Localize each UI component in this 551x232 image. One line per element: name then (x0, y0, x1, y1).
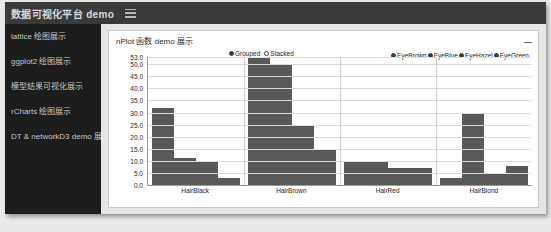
x-axis-tick: HairBlond (436, 187, 532, 194)
radio-stacked-label: Stacked (270, 50, 294, 57)
radio-stacked[interactable]: Stacked (264, 50, 294, 57)
bar[interactable] (314, 149, 336, 185)
bar[interactable] (484, 173, 506, 185)
y-axis-tick: 15.0 (130, 145, 143, 152)
grouping-radio-group: Grouped Stacked (229, 50, 294, 57)
radio-grouped-label: Grouped (235, 50, 260, 57)
y-axis-tick: 30.0 (130, 109, 143, 116)
y-axis-tick: 0.0 (134, 182, 143, 189)
sidebar-item-model-results[interactable]: 模型结果可视化展示 (5, 74, 101, 99)
bar[interactable] (410, 168, 432, 185)
plot-grid (147, 57, 532, 186)
x-axis-tick: HairBrown (243, 187, 339, 194)
y-axis-tick: 40.0 (130, 85, 143, 92)
y-axis-labels: 0.05.010.015.020.025.030.035.040.045.050… (109, 57, 145, 185)
bar[interactable] (388, 168, 410, 185)
bar[interactable] (506, 166, 528, 185)
minimize-icon[interactable] (524, 36, 532, 43)
y-axis-tick: 35.0 (130, 97, 143, 104)
x-axis-tick: HairRed (340, 187, 436, 194)
bar-chart: 0.05.010.015.020.025.030.035.040.045.050… (109, 57, 540, 207)
y-axis-tick: 53.0 (130, 54, 143, 61)
radio-hollow-icon (264, 51, 269, 56)
x-axis-tick: HairBlack (147, 187, 243, 194)
top-navbar: 数据可视化平台 demo (5, 2, 546, 24)
y-axis-tick: 5.0 (134, 169, 143, 176)
sidebar: lattice 绘图展示 ggplot2 绘图展示 模型结果可视化展示 rCha… (5, 24, 101, 214)
y-axis-tick: 10.0 (130, 157, 143, 164)
y-axis-tick: 20.0 (130, 133, 143, 140)
bar[interactable] (292, 125, 314, 185)
hamburger-bar (125, 16, 136, 18)
sidebar-item-dt-networkd3[interactable]: DT & networkD3 demo 展示 (5, 124, 101, 149)
content-area: nPlot 函数 demo 展示 Grouped Stacked (101, 24, 546, 214)
bar[interactable] (218, 178, 240, 185)
app-window: 数据可视化平台 demo lattice 绘图展示 ggplot2 绘图展示 模… (5, 2, 546, 214)
group-divider (436, 57, 437, 185)
hamburger-bar (125, 9, 136, 11)
minimize-bar (524, 42, 532, 44)
app-brand-title: 数据可视化平台 demo (5, 6, 114, 21)
sidebar-item-lattice[interactable]: lattice 绘图展示 (5, 24, 101, 49)
group-divider (244, 57, 245, 185)
sidebar-item-ggplot2[interactable]: ggplot2 绘图展示 (5, 49, 101, 74)
panel-header: nPlot 函数 demo 展示 (109, 31, 538, 49)
bar[interactable] (440, 178, 462, 185)
group-divider (340, 57, 341, 185)
y-axis-tick: 45.0 (130, 73, 143, 80)
bar[interactable] (174, 158, 196, 185)
hamburger-icon[interactable] (125, 9, 136, 18)
sidebar-item-rcharts[interactable]: rCharts 绘图展示 (5, 99, 101, 124)
y-axis-tick: 50.0 (130, 61, 143, 68)
panel-title: nPlot 函数 demo 展示 (116, 35, 538, 46)
chart-panel: nPlot 函数 demo 展示 Grouped Stacked (108, 30, 539, 208)
radio-filled-icon (229, 51, 234, 56)
y-axis-tick: 25.0 (130, 121, 143, 128)
radio-grouped[interactable]: Grouped (229, 50, 260, 57)
hamburger-bar (125, 12, 136, 14)
x-axis-labels: HairBlackHairBrownHairRedHairBlond (147, 187, 532, 194)
